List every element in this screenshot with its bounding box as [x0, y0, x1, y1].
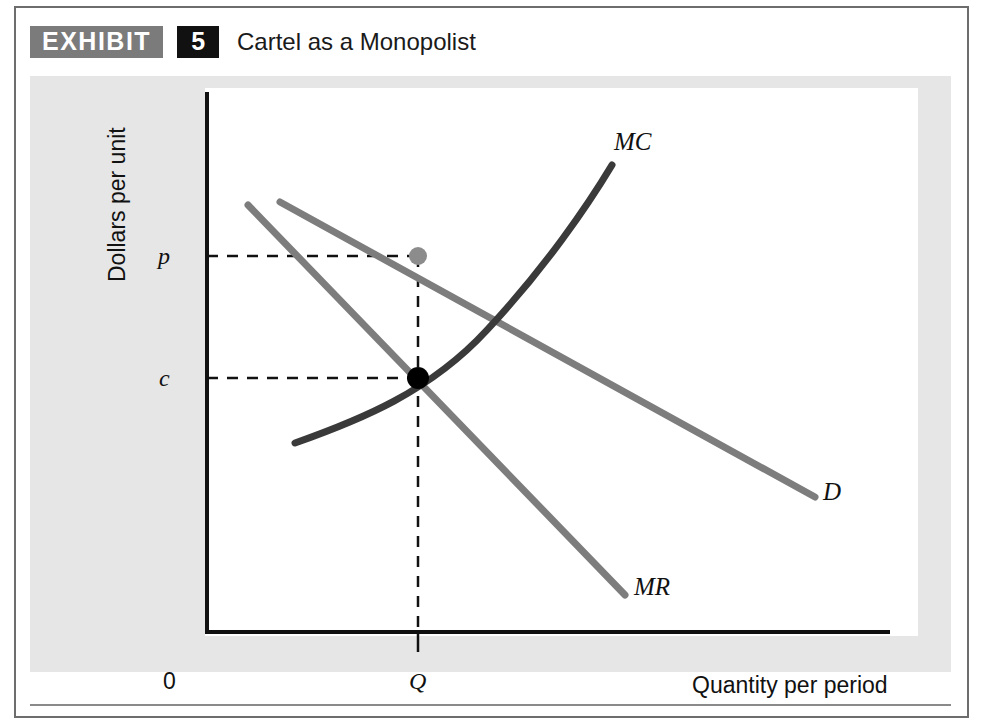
- exhibit-page: EXHIBIT 5 Cartel as a Monopolist Dollars…: [0, 0, 983, 724]
- exhibit-header: EXHIBIT 5 Cartel as a Monopolist: [30, 26, 476, 58]
- bottom-divider: [30, 704, 951, 706]
- origin-label: 0: [163, 668, 176, 695]
- curve-label-demand: D: [823, 478, 841, 506]
- y-tick-label-price: p: [158, 243, 170, 270]
- exhibit-number-badge: 5: [177, 26, 219, 58]
- x-tick-label-quantity: Q: [409, 668, 426, 695]
- curve-label-mc: MC: [614, 128, 652, 156]
- exhibit-badge: EXHIBIT: [30, 26, 163, 58]
- y-tick-label-cost: c: [159, 365, 170, 392]
- x-axis-label: Quantity per period: [692, 672, 888, 699]
- y-axis-label: Dollars per unit: [104, 127, 131, 282]
- curve-label-mr: MR: [634, 573, 670, 601]
- page-title: Cartel as a Monopolist: [237, 28, 476, 56]
- plot-canvas: [205, 88, 918, 636]
